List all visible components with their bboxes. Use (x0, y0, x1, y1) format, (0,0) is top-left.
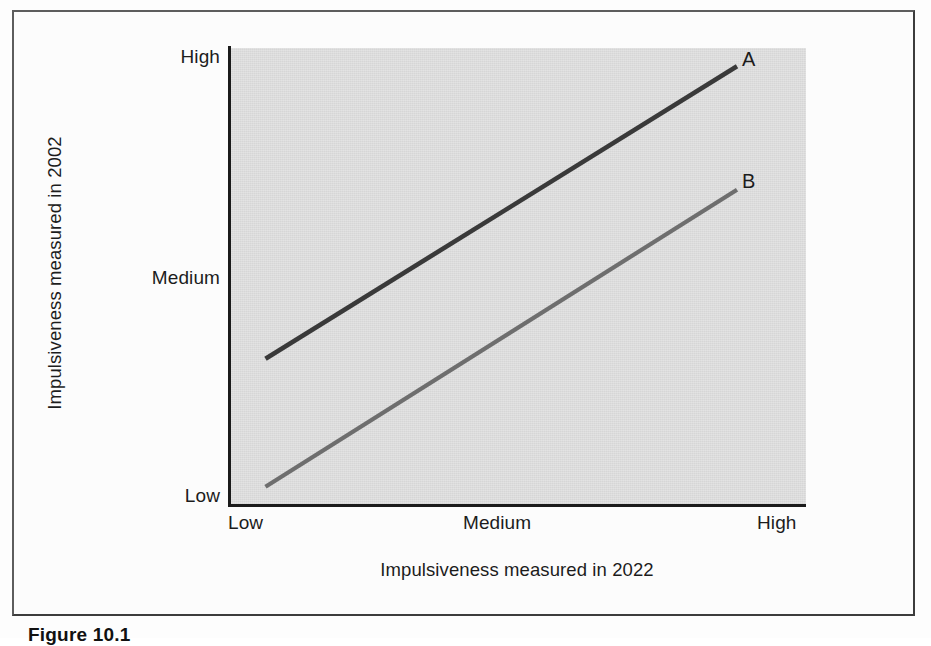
y-axis-title: Impulsiveness measured in 2002 (44, 108, 66, 438)
y-tick-medium-label: Medium (152, 267, 220, 289)
plot-area-background (231, 48, 806, 505)
x-axis-line (228, 504, 806, 507)
y-tick-low: Low (60, 485, 220, 509)
y-axis-line (228, 46, 231, 507)
y-tick-low-label: Low (185, 485, 220, 507)
x-axis-title: Impulsiveness measured in 2022 (228, 559, 806, 581)
series-label-a: A (742, 48, 755, 71)
figure-caption: Figure 10.1 (28, 624, 131, 646)
x-tick-medium-label: Medium (463, 512, 531, 534)
x-tick-low-label: Low (228, 512, 263, 534)
series-label-b: B (742, 170, 755, 193)
y-tick-high: High (60, 46, 220, 70)
x-tick-high-label: High (757, 512, 796, 534)
y-tick-high-label: High (181, 46, 220, 68)
y-tick-medium: Medium (60, 267, 220, 291)
